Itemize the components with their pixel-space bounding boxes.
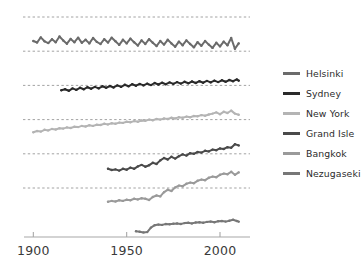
data-point [178,184,180,186]
data-point [204,179,206,181]
data-point [140,119,142,121]
legend-item-sydney[interactable]: Sydney [283,83,363,103]
legend-item-grand-isle[interactable]: Grand Isle [283,123,363,143]
legend-item-label: New York [306,108,349,119]
data-point [181,117,183,119]
data-point [223,111,225,113]
data-point [213,221,215,223]
data-point [96,41,98,43]
legend-item-label: Bangkok [306,148,347,159]
data-point [163,43,165,45]
data-point [174,117,176,119]
data-point [237,42,239,44]
data-point [137,44,139,46]
data-point [183,81,185,83]
data-point [211,148,213,150]
data-point [55,41,57,43]
data-point [109,85,111,87]
data-point [204,115,206,117]
data-point [167,189,169,191]
data-point [232,80,234,82]
data-point [196,180,198,182]
data-point [114,200,116,202]
data-point [125,169,127,171]
data-point [234,48,236,50]
data-point [144,43,146,45]
data-point [230,171,232,173]
data-point [94,86,96,88]
data-point [206,221,208,223]
legend-item-nezugaseki[interactable]: Nezugaseki [283,163,363,183]
data-point [189,116,191,118]
legend-item-new-york[interactable]: New York [283,103,363,123]
data-point [140,39,142,41]
legend-item-helsinki[interactable]: Helsinki [283,63,363,83]
data-point [161,82,163,84]
data-point [77,37,79,39]
chart-figure: 190019502000 HelsinkiSydneyNew YorkGrand… [0,0,363,266]
data-point [69,38,71,40]
data-point [122,39,124,41]
data-point [144,166,146,168]
data-point [148,164,150,166]
data-point [204,40,206,42]
data-point [152,42,154,44]
data-point [178,40,180,42]
data-point [62,127,64,129]
legend-swatch-icon [283,132,300,135]
data-point [133,41,135,43]
legend-item-label: Grand Isle [306,128,354,139]
data-point [180,223,182,225]
data-point [208,177,210,179]
data-point [155,163,157,165]
data-point [43,40,45,42]
data-point [204,150,206,152]
data-point [99,124,101,126]
data-point [224,81,226,83]
data-point [125,42,127,44]
data-point [103,123,105,125]
data-point [129,121,131,123]
data-point [140,197,142,199]
data-point [206,80,208,82]
data-point [51,128,53,130]
data-point [170,156,172,158]
data-point [223,40,225,42]
data-point [40,36,42,38]
data-point [96,124,98,126]
data-point [111,169,113,171]
data-point [144,198,146,200]
data-point [83,88,85,90]
data-point [118,169,120,171]
data-point [84,125,86,127]
data-point [219,174,221,176]
data-point [193,153,195,155]
data-point [172,83,174,85]
legend-swatch-icon [283,92,300,95]
data-point [43,129,45,131]
data-point [170,42,172,44]
data-point [221,79,223,81]
data-point [112,86,114,88]
legend-swatch-icon [283,152,300,155]
chart-legend: HelsinkiSydneyNew YorkGrand IsleBangkokN… [283,63,363,183]
data-point [189,43,191,45]
data-point [215,176,217,178]
data-point [193,115,195,117]
data-point [176,81,178,83]
data-point [152,119,154,121]
legend-item-label: Sydney [306,88,341,99]
data-point [155,118,157,120]
data-point [170,190,172,192]
data-point [159,40,161,42]
data-point [148,38,150,40]
data-point [213,79,215,81]
data-point [153,224,155,226]
data-point [174,157,176,159]
data-point [139,83,141,85]
data-point [181,44,183,46]
data-point [215,42,217,44]
data-point [86,86,88,88]
data-point [73,41,75,43]
legend-item-bangkok[interactable]: Bangkok [283,143,363,163]
